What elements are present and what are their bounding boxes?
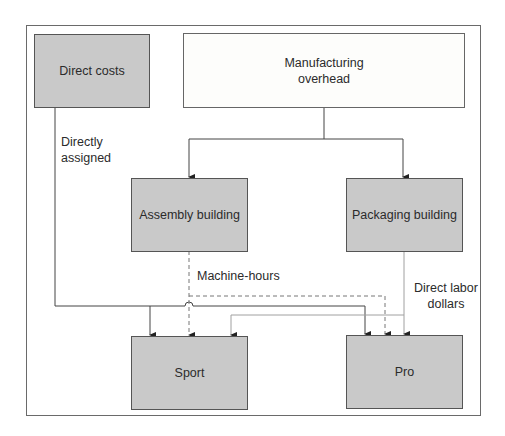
overhead-allocation-lines xyxy=(189,107,403,177)
manufacturing-overhead-box: Manufacturing overhead xyxy=(183,33,465,108)
machine-hours-line xyxy=(189,251,385,335)
sport-box: Sport xyxy=(131,336,248,410)
direct-costs-box: Direct costs xyxy=(34,34,150,108)
assembly-building-label: Assembly building xyxy=(139,207,240,223)
packaging-building-box: Packaging building xyxy=(346,178,463,252)
machine-hours-label: Machine-hours xyxy=(197,268,280,284)
direct-labor-line xyxy=(231,251,404,335)
pro-box: Pro xyxy=(346,335,463,409)
sport-label: Sport xyxy=(175,365,205,381)
assembly-building-box: Assembly building xyxy=(131,178,248,252)
direct-costs-label: Direct costs xyxy=(59,63,124,79)
pro-label: Pro xyxy=(395,364,414,380)
packaging-building-label: Packaging building xyxy=(352,207,457,223)
directly-assigned-label: Directly assigned xyxy=(61,134,121,166)
direct-labor-dollars-label: Direct labor dollars xyxy=(412,280,480,312)
manufacturing-overhead-label: Manufacturing overhead xyxy=(274,55,374,87)
